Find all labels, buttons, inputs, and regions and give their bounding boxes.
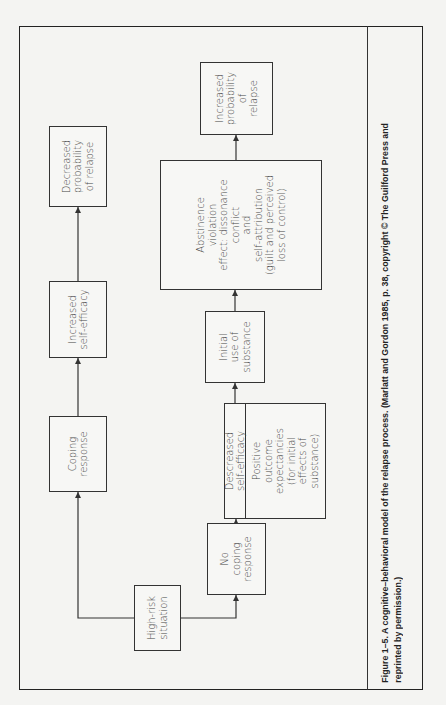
node-text: No [219, 536, 231, 581]
node-text: outcome [263, 428, 275, 494]
node-text: use of [229, 321, 241, 372]
node-text: self-efficacy [78, 289, 90, 349]
node-text: effect: dissonance [218, 175, 230, 275]
node-increased-self-efficacy: Increasedself-efficacy [49, 281, 107, 358]
node-text: Coping [67, 431, 79, 476]
node-text: relapse [248, 72, 260, 125]
node-text: probability [225, 72, 237, 125]
node-text: effects of [297, 428, 309, 494]
node-text: Increased [214, 72, 226, 125]
node-text: substance) [309, 428, 321, 494]
node-text: coping [231, 536, 243, 581]
node-text: and [241, 175, 253, 275]
node-decreased-probability-of-relapse: Decreasedprobabilityof relapse [49, 126, 107, 207]
node-text: response [78, 431, 90, 476]
node-text: of [237, 72, 249, 125]
node-text: self-efficacy [235, 431, 247, 491]
node-abstinence-violation-effect: Abstinence violation effect: dissonance … [160, 160, 322, 290]
edge-highrisk-to-coping [78, 492, 134, 618]
node-decreased-self-efficacy: Descreasedself-efficacy [225, 404, 246, 518]
diagram-stage: High-risksituation Copingresponse Increa… [19, 26, 423, 690]
node-text: expectancies [274, 428, 286, 494]
node-text: High-risk [146, 596, 158, 640]
node-decreased-self-efficacy-group: Descreasedself-efficacy Positive outcome… [224, 403, 326, 519]
node-text: conflict [230, 175, 242, 275]
node-text: probability [72, 140, 84, 193]
node-text: violation [207, 175, 219, 275]
node-text: (for initial [286, 428, 298, 494]
node-increased-probability-of-relapse: Increased probability of relapse [200, 62, 273, 135]
node-text: of relapse [84, 140, 96, 193]
node-text: Initial [218, 321, 230, 372]
node-text: Descreased [224, 431, 236, 491]
node-text: situation [158, 596, 170, 640]
node-no-coping-response: Nocopingresponse [207, 523, 266, 595]
node-text: Positive [251, 428, 263, 494]
edge-highrisk-to-nocoping [181, 595, 236, 618]
node-text: substance [241, 321, 253, 372]
node-text: Decreased [61, 140, 73, 193]
node-initial-use-of-substance: Initialuse ofsubstance [205, 311, 265, 383]
node-text: Abstinence [195, 175, 207, 275]
node-text: (guilt and perceived [264, 175, 276, 275]
node-text: Increased [67, 289, 79, 349]
node-text: self-attribution [253, 175, 265, 275]
node-positive-outcome-expectancies: Positive outcome expectancies (for initi… [246, 404, 325, 518]
node-coping-response: Copingresponse [49, 416, 107, 492]
node-high-risk-situation: High-risksituation [134, 585, 181, 651]
figure-caption: Figure 1–5. A cognitive–behavioral model… [373, 79, 423, 690]
node-text: loss of control) [276, 175, 288, 275]
node-text: response [242, 536, 254, 581]
